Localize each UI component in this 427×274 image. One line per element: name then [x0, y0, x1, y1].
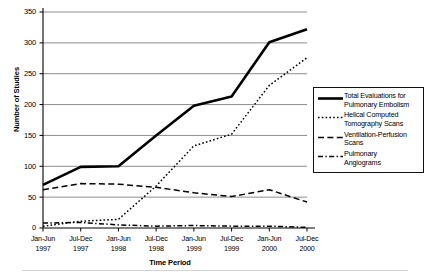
x-tick-label: Jul-Dec2000 — [285, 234, 329, 253]
legend-swatch-icon — [317, 132, 344, 143]
y-tick-label: 50 — [12, 193, 36, 202]
y-tick-label: 200 — [12, 100, 36, 109]
page-rule — [22, 270, 408, 271]
series-line — [43, 184, 307, 203]
legend-item: Total Evaluations for Pulmonary Embolism — [314, 91, 423, 110]
legend-label: Pulmonary Angiograms — [344, 150, 381, 167]
legend-item: Pulmonary Angiograms — [314, 149, 423, 168]
y-tick-label: 150 — [12, 131, 36, 140]
series-line — [43, 29, 307, 185]
x-axis-title: Time Period — [40, 258, 300, 267]
chart-figure: Number of Studies 050100150200250300350 … — [0, 0, 427, 274]
legend-label: Total Evaluations for Pulmonary Embolism — [344, 92, 409, 109]
legend-label: Helical Computed Tomography Scans — [344, 111, 403, 128]
legend-swatch-icon — [317, 151, 344, 162]
series-line — [43, 222, 307, 227]
y-tick-label: 100 — [12, 162, 36, 171]
chart-legend: Total Evaluations for Pulmonary Embolism… — [313, 87, 424, 173]
y-tick-label: 350 — [12, 7, 36, 16]
legend-item: Ventilation-Perfusion Scans — [314, 130, 423, 149]
legend-label: Ventilation-Perfusion Scans — [344, 131, 407, 148]
y-tick-label: 300 — [12, 38, 36, 47]
series-line — [43, 58, 307, 226]
legend-item: Helical Computed Tomography Scans — [314, 110, 423, 129]
legend-swatch-icon — [317, 93, 344, 104]
legend-swatch-icon — [317, 112, 344, 123]
y-tick-label: 250 — [12, 69, 36, 78]
y-tick-label: 0 — [12, 223, 36, 232]
